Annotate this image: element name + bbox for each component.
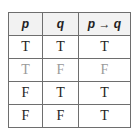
table-row: F F T: [9, 105, 131, 128]
cell-q: T: [43, 36, 79, 59]
table-row-dimmed: T F F: [9, 59, 131, 82]
cell-implication: T: [79, 105, 131, 128]
cell-q: F: [43, 105, 79, 128]
truth-table: p q p → q T T T T F F F T T F F T: [8, 12, 131, 128]
cell-q: F: [43, 59, 79, 82]
header-p-implies-q: p → q: [79, 13, 131, 36]
table-row: F T T: [9, 82, 131, 105]
cell-q: T: [43, 82, 79, 105]
cell-implication: T: [79, 36, 131, 59]
cell-p: T: [9, 59, 43, 82]
header-row: p q p → q: [9, 13, 131, 36]
cell-implication: T: [79, 82, 131, 105]
cell-implication: F: [79, 59, 131, 82]
table-row: T T T: [9, 36, 131, 59]
cell-p: T: [9, 36, 43, 59]
cell-p: F: [9, 105, 43, 128]
header-q: q: [43, 13, 79, 36]
cell-p: F: [9, 82, 43, 105]
header-p: p: [9, 13, 43, 36]
